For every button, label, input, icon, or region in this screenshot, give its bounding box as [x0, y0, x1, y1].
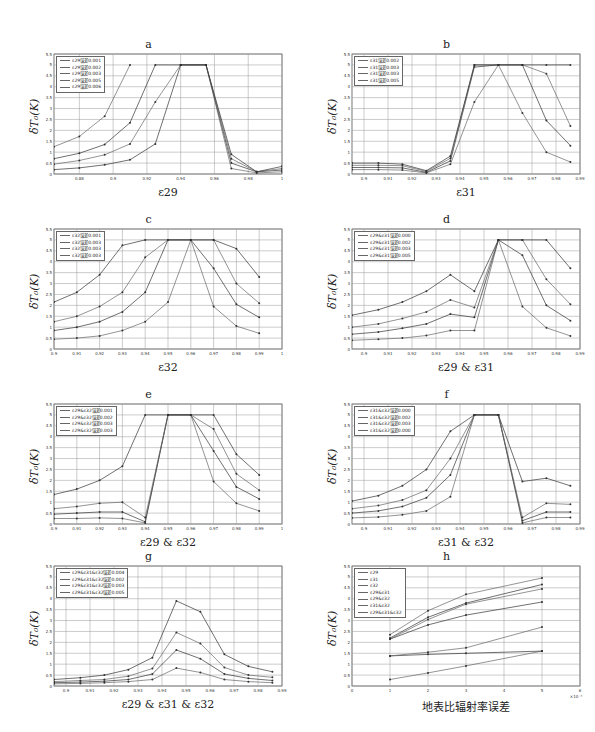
- svg-text:0.95: 0.95: [164, 526, 173, 531]
- legend-swatch-icon: [60, 585, 70, 586]
- legend-label: ε29误差0.005: [72, 78, 101, 83]
- legend-label: ε29&ε31&ε32: [370, 610, 402, 615]
- svg-text:0.96: 0.96: [186, 351, 195, 356]
- svg-text:3: 3: [347, 106, 350, 111]
- chart-legend: ε29&ε32误差0.001ε29&ε32误差0.002ε29&ε32误差0.0…: [56, 406, 117, 436]
- svg-text:0.97: 0.97: [528, 176, 537, 181]
- svg-text:4.5: 4.5: [344, 423, 351, 428]
- svg-text:4: 4: [347, 259, 350, 264]
- chart-panel-h: 00.511.522.533.544.555.50123456×10⁻³h地表比…: [298, 552, 595, 728]
- svg-text:2: 2: [49, 640, 52, 645]
- legend-entry: ε29误差0.001: [60, 58, 101, 65]
- chart-title: h: [298, 550, 595, 563]
- svg-text:2: 2: [347, 303, 350, 308]
- legend-label: ε31&ε32误差0.002: [370, 415, 411, 420]
- svg-text:0.5: 0.5: [344, 673, 351, 678]
- svg-text:5: 5: [347, 62, 350, 67]
- legend-label: ε31&ε32误差0.000: [370, 428, 411, 433]
- svg-text:0.98: 0.98: [552, 351, 561, 356]
- legend-label: ε32误差0.003: [72, 240, 101, 245]
- legend-label: ε29误差0.006: [72, 84, 101, 89]
- svg-text:0.92: 0.92: [408, 351, 417, 356]
- svg-text:0.95: 0.95: [480, 351, 489, 356]
- svg-text:4: 4: [347, 434, 350, 439]
- svg-text:0.96: 0.96: [504, 351, 513, 356]
- svg-text:0.5: 0.5: [344, 161, 351, 166]
- svg-text:1: 1: [347, 150, 350, 155]
- svg-text:4.5: 4.5: [344, 73, 351, 78]
- svg-text:0.88: 0.88: [75, 176, 84, 181]
- legend-entry: ε32误差0.003: [60, 253, 101, 260]
- svg-text:4.5: 4.5: [46, 585, 53, 590]
- svg-text:0.91: 0.91: [384, 351, 393, 356]
- svg-text:5.5: 5.5: [46, 227, 53, 232]
- svg-text:4.5: 4.5: [46, 248, 53, 253]
- svg-text:3.5: 3.5: [344, 607, 351, 612]
- chart-title: e: [0, 388, 297, 401]
- legend-label: ε29&ε32误差0.001: [72, 408, 113, 413]
- legend-entry: ε29&ε31&ε32误差0.005: [60, 590, 124, 597]
- legend-swatch-icon: [60, 592, 70, 593]
- chart-title: f: [298, 388, 595, 401]
- chart-panel-g: 00.511.522.533.544.555.50.90.910.920.930…: [0, 552, 297, 728]
- svg-text:0.96: 0.96: [504, 526, 513, 531]
- svg-text:0.92: 0.92: [95, 351, 104, 356]
- svg-text:1: 1: [49, 500, 52, 505]
- svg-text:0.93: 0.93: [118, 351, 127, 356]
- chart-legend: ε29误差0.001ε29误差0.002ε29误差0.003ε29误差0.005…: [56, 56, 105, 93]
- svg-text:0.92: 0.92: [110, 688, 119, 693]
- legend-swatch-icon: [60, 235, 70, 236]
- legend-entry: ε31误差0.003: [358, 71, 399, 78]
- legend-swatch-icon: [358, 605, 368, 606]
- svg-text:1: 1: [49, 662, 52, 667]
- svg-text:0.91: 0.91: [384, 526, 393, 531]
- x-axis-label: ε29 & ε32: [20, 536, 317, 549]
- legend-swatch-icon: [60, 423, 70, 424]
- svg-text:0.97: 0.97: [209, 526, 218, 531]
- legend-label: ε29&ε31&ε32误差0.004: [72, 570, 124, 575]
- svg-text:0.91: 0.91: [72, 526, 81, 531]
- svg-text:0.95: 0.95: [164, 351, 173, 356]
- legend-entry: ε29&ε31: [358, 590, 402, 597]
- svg-text:2.5: 2.5: [46, 629, 53, 634]
- svg-text:0: 0: [49, 684, 52, 689]
- legend-entry: ε29: [358, 570, 402, 577]
- svg-text:5.5: 5.5: [344, 402, 351, 407]
- legend-swatch-icon: [60, 73, 70, 74]
- svg-text:0.9: 0.9: [51, 526, 58, 531]
- legend-entry: ε31&ε32误差0.000: [358, 408, 411, 415]
- svg-text:0.9: 0.9: [51, 351, 58, 356]
- legend-entry: ε31误差0.005: [358, 78, 399, 85]
- svg-text:4: 4: [49, 259, 52, 264]
- chart-legend: ε32误差0.001ε32误差0.003ε32误差0.003ε32误差0.003: [56, 231, 105, 261]
- legend-swatch-icon: [358, 410, 368, 411]
- svg-text:1: 1: [49, 150, 52, 155]
- y-axis-label: δT₀(K): [326, 449, 339, 484]
- svg-text:2: 2: [347, 478, 350, 483]
- legend-label: ε31误差0.005: [370, 78, 399, 83]
- legend-label: ε29&ε31误差0.005: [370, 253, 411, 258]
- legend-label: ε29误差0.001: [72, 58, 101, 63]
- svg-text:0.5: 0.5: [46, 673, 53, 678]
- chart-panel-b: 00.511.522.533.544.555.50.90.910.920.930…: [298, 40, 595, 216]
- svg-text:0.99: 0.99: [576, 176, 585, 181]
- svg-text:0.92: 0.92: [408, 176, 417, 181]
- svg-text:0.91: 0.91: [72, 351, 81, 356]
- legend-label: ε31误差0.003: [370, 65, 399, 70]
- chart-title: a: [0, 38, 297, 51]
- legend-label: ε29&ε31&ε32误差0.002: [72, 577, 124, 582]
- legend-label: ε31误差0.003: [370, 71, 399, 76]
- svg-text:3: 3: [49, 106, 52, 111]
- legend-swatch-icon: [60, 410, 70, 411]
- chart-legend: ε29&ε31&ε32误差0.004ε29&ε31&ε32误差0.002ε29&…: [56, 568, 128, 598]
- svg-text:5: 5: [49, 574, 52, 579]
- svg-text:0.92: 0.92: [408, 526, 417, 531]
- legend-swatch-icon: [358, 235, 368, 236]
- chart-panel-f: 00.511.522.533.544.555.50.90.910.920.930…: [298, 390, 595, 566]
- svg-text:0.9: 0.9: [63, 688, 70, 693]
- svg-text:3.5: 3.5: [46, 270, 53, 275]
- legend-label: ε32误差0.003: [72, 246, 101, 251]
- svg-text:3: 3: [347, 618, 350, 623]
- svg-text:0.9: 0.9: [361, 176, 368, 181]
- svg-text:1.5: 1.5: [344, 489, 351, 494]
